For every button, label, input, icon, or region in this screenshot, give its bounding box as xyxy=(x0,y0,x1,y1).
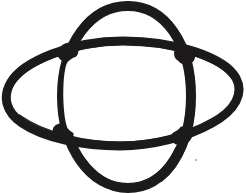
stray-ink-fleck xyxy=(195,159,197,161)
interior-white-region xyxy=(63,50,183,140)
figure-canvas: Two Intersecting Ellipses Sketch Hand-dr… xyxy=(0,0,246,193)
ellipse-figure-svg xyxy=(0,0,246,193)
